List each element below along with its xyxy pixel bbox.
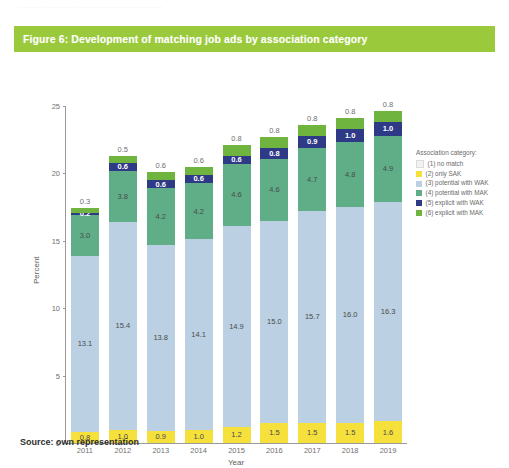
legend-item[interactable]: (6) explicit with MAK: [416, 209, 509, 217]
y-axis-tick-label: 10: [30, 304, 60, 313]
bar-segment[interactable]: [336, 118, 364, 129]
bar-segment[interactable]: [298, 148, 326, 211]
y-axis-title: Percent: [32, 256, 41, 284]
page-top-text-remnant: ........................................…: [0, 0, 509, 14]
y-axis-tick-mark: [63, 173, 66, 174]
x-axis-tick-label: 2019: [368, 446, 408, 455]
bar-segment[interactable]: [374, 111, 402, 122]
bar-segment[interactable]: [223, 164, 251, 226]
bar-stack[interactable]: 1.515.74.70.90.8: [298, 106, 326, 443]
y-axis-tick-mark: [63, 106, 66, 107]
bar-segment[interactable]: [147, 245, 175, 431]
bar-segment[interactable]: [298, 211, 326, 423]
bar-segment[interactable]: [185, 175, 213, 183]
bar-segment[interactable]: [109, 222, 137, 430]
bar-segment[interactable]: [374, 421, 402, 443]
bar-segment[interactable]: [185, 183, 213, 240]
bar-stack[interactable]: 1.515.04.60.80.8: [260, 106, 288, 443]
bar-stack[interactable]: 1.214.94.60.60.8: [223, 106, 251, 443]
legend-item-label: (5) explicit with WAK: [426, 200, 484, 206]
bar-segment[interactable]: [298, 136, 326, 148]
x-axis-tick-label: 2016: [254, 446, 294, 455]
y-axis-line: [65, 106, 66, 444]
legend-item-label: (6) explicit with MAK: [426, 210, 484, 216]
bar-segment[interactable]: [71, 213, 99, 216]
bar-segment[interactable]: [374, 122, 402, 135]
legend-item-label: (4) potential with MAK: [426, 190, 489, 196]
legend-swatch-icon: [416, 190, 422, 196]
legend-swatch-icon: [416, 210, 422, 216]
bar-segment[interactable]: [71, 208, 99, 212]
bar-total-top-value: 0.3: [71, 197, 99, 206]
bar-segment[interactable]: [336, 142, 364, 207]
chart-legend: Association category: (1) no match(2) on…: [416, 150, 509, 219]
bar-segment[interactable]: [147, 172, 175, 180]
bar-segment[interactable]: [147, 431, 175, 443]
legend-item-label: (1) no match: [428, 161, 464, 167]
bar-stack[interactable]: 1.616.34.91.00.8: [374, 106, 402, 443]
chart-container: Percent Year 0510152025 0.813.13.00.20.3…: [14, 52, 495, 420]
x-axis-title: Year: [14, 458, 458, 467]
y-axis-tick-mark: [63, 308, 66, 309]
bar-segment[interactable]: [223, 226, 251, 427]
x-axis-tick-label: 2018: [330, 446, 370, 455]
bar-total-top-value: 0.8: [223, 134, 251, 143]
figure-caption-banner: Figure 6: Development of matching job ad…: [14, 26, 495, 52]
bar-segment[interactable]: [336, 207, 364, 423]
legend-swatch-icon: [416, 200, 422, 206]
bar-segment[interactable]: [298, 423, 326, 443]
y-axis-tick-label: 15: [30, 236, 60, 245]
bar-total-top-value: 0.5: [109, 145, 137, 154]
figure-caption-text: Figure 6: Development of matching job ad…: [14, 33, 367, 45]
legend-item[interactable]: (1) no match: [416, 160, 509, 168]
y-axis-tick-label: 20: [30, 169, 60, 178]
bar-segment[interactable]: [185, 167, 213, 175]
legend-title: Association category:: [416, 150, 509, 156]
legend-rows: (1) no match(2) only SAK(3) potential wi…: [416, 160, 509, 217]
bar-segment[interactable]: [260, 423, 288, 443]
x-axis-tick-label: 2013: [141, 446, 181, 455]
y-axis-tick-label: 5: [30, 371, 60, 380]
bar-segment[interactable]: [109, 156, 137, 163]
bar-segment[interactable]: [374, 202, 402, 422]
bar-segment[interactable]: [185, 430, 213, 443]
bar-segment[interactable]: [260, 137, 288, 148]
bar-stack[interactable]: 1.015.43.80.60.5: [109, 106, 137, 443]
legend-item[interactable]: (3) potential with WAK: [416, 179, 509, 187]
bar-segment[interactable]: [260, 148, 288, 159]
bar-segment[interactable]: [147, 188, 175, 245]
bar-stack[interactable]: 0.913.84.20.60.6: [147, 106, 175, 443]
bar-segment[interactable]: [147, 180, 175, 188]
bar-total-top-value: 0.8: [374, 100, 402, 109]
x-axis-tick-label: 2015: [217, 446, 257, 455]
x-axis-tick-label: 2012: [103, 446, 143, 455]
legend-swatch-icon: [416, 171, 422, 177]
bar-segment[interactable]: [260, 159, 288, 221]
bar-segment[interactable]: [71, 215, 99, 255]
bar-total-top-value: 0.6: [147, 161, 175, 170]
bar-total-top-value: 0.6: [185, 156, 213, 165]
bar-segment[interactable]: [109, 163, 137, 171]
bar-stack[interactable]: 1.014.14.20.60.6: [185, 106, 213, 443]
bar-segment[interactable]: [223, 156, 251, 164]
bar-segment[interactable]: [109, 171, 137, 222]
bar-stack[interactable]: 0.813.13.00.20.3: [71, 106, 99, 443]
bar-segment[interactable]: [71, 256, 99, 433]
bar-segment[interactable]: [336, 423, 364, 443]
legend-item-label: (3) potential with WAK: [426, 180, 489, 186]
legend-item[interactable]: (4) potential with MAK: [416, 189, 509, 197]
bar-total-top-value: 0.8: [336, 107, 364, 116]
bar-stack[interactable]: 1.516.04.81.00.8: [336, 106, 364, 443]
bar-segment[interactable]: [223, 427, 251, 443]
bar-segment[interactable]: [260, 221, 288, 423]
legend-item[interactable]: (5) explicit with WAK: [416, 199, 509, 207]
legend-swatch-icon: [416, 181, 422, 187]
legend-item[interactable]: (2) only SAK: [416, 170, 509, 178]
bar-segment[interactable]: [298, 125, 326, 136]
bar-segment[interactable]: [374, 136, 402, 202]
x-axis-tick-label: 2014: [179, 446, 219, 455]
bar-segment[interactable]: [336, 129, 364, 142]
bar-segment[interactable]: [185, 239, 213, 429]
y-axis-tick-mark: [63, 376, 66, 377]
bar-segment[interactable]: [223, 145, 251, 156]
